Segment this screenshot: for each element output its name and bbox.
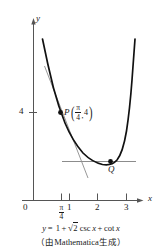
x-axis-label: x [148,194,152,203]
y-axis-label: y [36,14,40,23]
equation-plus2: + [98,223,103,233]
radicand: 2 [73,222,78,233]
point-P-name: P [64,108,70,117]
source-note: （由Mathematica生成） [0,235,162,247]
equation-cot: cot [104,223,114,233]
equation-var1: x [92,223,96,233]
function-curve [43,39,136,165]
equation-term1: 1 [56,223,60,233]
equation-equals: = [48,223,53,233]
origin-label: 0 [23,203,28,212]
point-P-coordinates: π 4 , 4 [75,104,88,121]
equation-caption: y=1+√2cscx+cotx [0,222,162,233]
y-tick-label-4: 4 [19,107,24,116]
fraction-numerator: π [59,204,65,212]
fraction-denominator: 4 [59,213,65,221]
point-Q-label: Q [108,165,115,174]
point-P-label: P ( π 4 , 4 ) [64,104,94,121]
figure-container: y x 4 0 π 4 1 2 3 P ( π 4 , 4 ) Q [0,0,162,251]
coordinate-y: 4 [84,109,88,117]
equation-plus1: + [62,223,67,233]
x-tick-label-1: 1 [67,203,72,212]
equation-lhs: y [42,223,46,233]
x-tick-label-2: 2 [95,203,100,212]
plot-canvas [0,0,162,251]
x-axis-arrowhead [137,198,144,202]
equation-var2: x [116,223,120,233]
point-P-marker [58,110,63,115]
right-paren-icon: ) [89,105,93,120]
fraction-numerator: π [75,104,81,112]
x-tick-label-pi-over-4: π 4 [56,203,67,221]
left-paren-icon: ( [71,105,75,120]
equation-csc: csc [80,223,91,233]
fraction-pi-over-4: π 4 [59,204,65,221]
x-tick-label-3: 3 [124,203,129,212]
square-root-icon: √2 [68,222,78,233]
